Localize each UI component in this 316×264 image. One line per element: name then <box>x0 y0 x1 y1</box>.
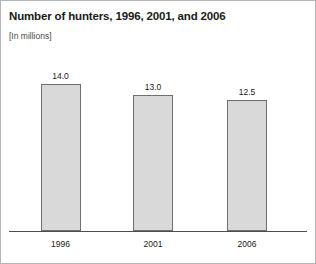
bar-value-label-1996: 14.0 <box>31 71 91 81</box>
bar-2006 <box>227 100 267 231</box>
category-label-2006: 2006 <box>217 239 277 249</box>
bar-1996 <box>41 84 81 231</box>
category-label-1996: 1996 <box>31 239 91 249</box>
bar-value-label-2006: 12.5 <box>217 87 277 97</box>
x-axis-line <box>9 231 307 232</box>
plot-area: 14.013.012.5 199620012006 <box>0 0 316 264</box>
chart-figure: Number of hunters, 1996, 2001, and 2006 … <box>0 0 316 264</box>
category-label-2001: 2001 <box>123 239 183 249</box>
bar-value-label-2001: 13.0 <box>123 82 183 92</box>
bar-2001 <box>133 95 173 232</box>
